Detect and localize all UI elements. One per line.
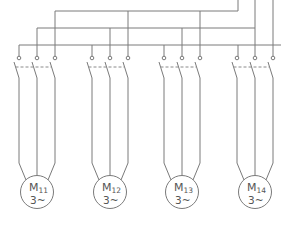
motor-conductors <box>19 78 55 180</box>
motor-type-label: 3~ <box>248 194 263 206</box>
motor-conductors <box>92 78 128 180</box>
motor-group-m14: M143~ <box>232 56 275 208</box>
switch-blade <box>232 62 237 78</box>
switch-blade <box>123 62 128 78</box>
motor-label: M <box>247 181 257 194</box>
switch-blade <box>250 62 255 78</box>
switch-blade <box>268 62 273 78</box>
motor-type-label: 3~ <box>103 194 118 206</box>
motor-type-label: 3~ <box>30 194 45 206</box>
switch-blade <box>195 62 200 78</box>
bus-l2 <box>37 28 255 57</box>
switch-blade <box>32 62 37 78</box>
switch-terminal <box>235 56 239 60</box>
switch-blade <box>87 62 92 78</box>
switch-terminal <box>108 56 112 60</box>
motor-group-m12: M123~ <box>87 56 130 208</box>
switch-terminal <box>253 56 257 60</box>
three-pole-switch <box>232 56 275 78</box>
motor-label: M <box>29 181 39 194</box>
conductor <box>164 78 171 180</box>
switch-terminal <box>17 56 21 60</box>
conductor <box>92 78 99 180</box>
switch-blade <box>14 62 19 78</box>
three-pole-switch <box>87 56 130 78</box>
motor-group-m11: M113~ <box>14 56 57 208</box>
switch-blade <box>50 62 55 78</box>
motor-conductors <box>164 78 200 180</box>
motor-label: M <box>174 181 184 194</box>
switch-terminal <box>53 56 57 60</box>
three-pole-switch <box>159 56 202 78</box>
switch-terminal <box>90 56 94 60</box>
switch-terminal <box>180 56 184 60</box>
switch-terminal <box>35 56 39 60</box>
switch-terminal <box>162 56 166 60</box>
switch-terminal <box>198 56 202 60</box>
motor-conductors <box>237 78 273 180</box>
switch-terminal <box>271 56 275 60</box>
bus-l3 <box>19 45 281 57</box>
supply-bus <box>19 0 281 57</box>
motor-type-label: 3~ <box>175 194 190 206</box>
conductor <box>48 78 55 180</box>
switch-blade <box>177 62 182 78</box>
conductor <box>237 78 244 180</box>
motor-groups: M113~M123~M133~M143~ <box>14 56 275 208</box>
conductor <box>266 78 273 180</box>
motor-circuit-diagram: M113~M123~M133~M143~ <box>0 0 281 228</box>
three-pole-switch <box>14 56 57 78</box>
conductor <box>19 78 26 180</box>
conductor <box>193 78 200 180</box>
switch-terminal <box>126 56 130 60</box>
switch-blade <box>105 62 110 78</box>
conductor <box>121 78 128 180</box>
motor-group-m13: M133~ <box>159 56 202 208</box>
motor-label: M <box>102 181 112 194</box>
switch-blade <box>159 62 164 78</box>
